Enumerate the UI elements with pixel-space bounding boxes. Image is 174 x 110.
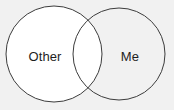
venn-label-right: Me	[121, 50, 139, 63]
venn-circle-right[interactable]	[73, 8, 165, 100]
venn-label-left: Other	[28, 50, 61, 63]
venn-diagram: Other Me	[0, 0, 174, 110]
venn-diagram-canvas	[0, 0, 174, 110]
